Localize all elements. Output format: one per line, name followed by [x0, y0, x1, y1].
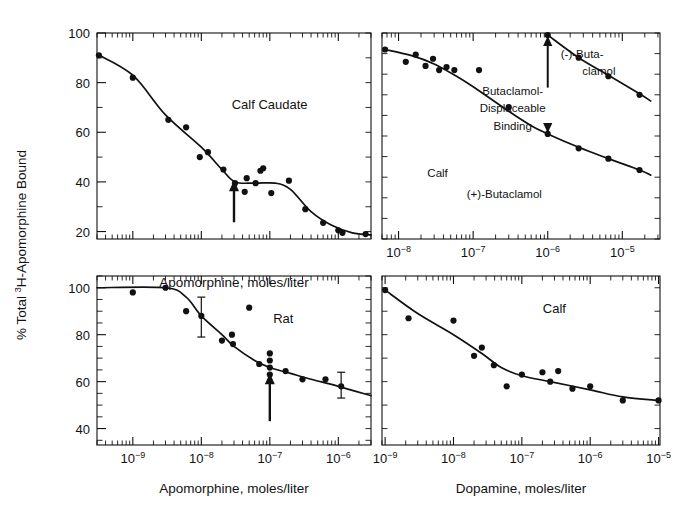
annotations-panel-bottom-left: RatApomorphine, moles/liter — [159, 311, 309, 496]
y-axis-title-text: % Total 3H-Apomorphine Bound — [13, 150, 29, 340]
data-point — [246, 305, 252, 311]
data-point — [244, 175, 250, 181]
panel-annotation-2: Butaclamol- — [482, 85, 543, 97]
panel-annotation-5: Calf — [427, 167, 448, 179]
y-tick-label: 60 — [76, 125, 90, 140]
data-point — [198, 313, 204, 319]
data-point-series-1 — [403, 59, 409, 65]
data-point — [539, 369, 545, 375]
data-point-series-1 — [436, 67, 442, 73]
data-point — [130, 289, 136, 295]
data-points-panel-bottom-right — [382, 287, 662, 404]
x-axis-panel-bottom-left: 10−910−810−710−6 — [97, 276, 371, 466]
data-point-series-1 — [443, 64, 449, 70]
panel-annotation-1: clamol — [582, 65, 615, 77]
data-point — [165, 117, 171, 123]
chart-panel-panel-top-right: 10−810−710−610−5(-)-Buta-clamolButaclamo… — [382, 32, 660, 260]
data-point-series-1 — [576, 145, 582, 151]
data-point — [299, 376, 305, 382]
data-point — [220, 166, 226, 172]
y-axis-panel-bottom-left: 406080100 — [68, 276, 371, 440]
data-point — [183, 308, 189, 314]
panel-frame — [97, 276, 371, 445]
four-panel-binding-figure: 20406080100Calf CaudateApomorphine, mole… — [0, 0, 675, 518]
annotation-arrow-panel-bottom-left — [265, 373, 275, 421]
x-tick-label: 10−7 — [461, 244, 486, 260]
x-tick-label: 10−9 — [120, 450, 145, 466]
data-point-series-1 — [422, 63, 428, 69]
data-point-series-1 — [413, 52, 419, 58]
data-point-series-1 — [382, 46, 388, 52]
data-point-series-1 — [476, 67, 482, 73]
panel-title-annotation: Calf Caudate — [232, 97, 308, 112]
data-point-series-1 — [636, 167, 642, 173]
data-point-series-0 — [636, 92, 642, 98]
data-point — [569, 386, 575, 392]
x-tick-label: 10−5 — [610, 244, 635, 260]
data-point — [197, 154, 203, 160]
data-point — [267, 364, 273, 370]
chart-panel-panel-top-left: 20406080100Calf CaudateApomorphine, mole… — [68, 26, 371, 290]
data-point — [205, 149, 211, 155]
y-tick-label: 80 — [76, 76, 90, 91]
data-point — [183, 124, 189, 130]
data-point-series-1 — [451, 67, 457, 73]
annotation-arrow-panel-top-left — [229, 180, 239, 222]
panel-title-annotation: Calf — [543, 301, 567, 316]
y-tick-label: 100 — [68, 281, 90, 296]
y-tick-label: 60 — [76, 375, 90, 390]
panel-annotation-6: (+)-Butaclamol — [467, 188, 542, 200]
x-tick-label: 10−7 — [509, 450, 534, 466]
data-point — [339, 230, 345, 236]
data-point — [322, 376, 328, 382]
annotations-panel-bottom-right: CalfDopamine, moles/liter — [456, 301, 587, 496]
data-point — [219, 337, 225, 343]
curves-panel-bottom-right — [385, 290, 658, 400]
data-point — [519, 371, 525, 377]
figure-container: 20406080100Calf CaudateApomorphine, mole… — [0, 0, 675, 518]
x-tick-label: 10−8 — [441, 450, 466, 466]
data-point-series-1 — [605, 156, 611, 162]
data-point — [587, 383, 593, 389]
x-tick-label: 10−7 — [257, 450, 282, 466]
data-point — [655, 397, 661, 403]
y-axis-panel-bottom-right — [382, 288, 660, 429]
data-point — [504, 383, 510, 389]
chart-panel-panel-bottom-right: 10−910−810−710−610−5CalfDopamine, moles/… — [373, 276, 671, 496]
data-point — [555, 368, 561, 374]
data-point — [620, 397, 626, 403]
x-axis-title: Apomorphine, moles/liter — [159, 481, 309, 496]
x-tick-label: 10−8 — [386, 244, 411, 260]
arrow-head-up — [265, 373, 275, 384]
data-point-series-1 — [430, 56, 436, 62]
data-point — [302, 206, 308, 212]
data-point — [267, 350, 273, 356]
x-axis-title: Dopamine, moles/liter — [456, 481, 587, 496]
data-point — [382, 287, 388, 293]
y-tick-label: 40 — [76, 175, 90, 190]
x-tick-label: 10−6 — [535, 244, 560, 260]
data-point — [283, 368, 289, 374]
data-point — [405, 315, 411, 321]
data-point — [242, 189, 248, 195]
data-point — [286, 178, 292, 184]
panel-title-annotation: Rat — [273, 311, 294, 326]
chart-panel-panel-bottom-left: 10−910−810−710−6406080100RatApomorphine,… — [68, 276, 371, 496]
x-tick-label: 10−8 — [189, 450, 214, 466]
data-point — [96, 52, 102, 58]
data-point — [547, 379, 553, 385]
arrow-head-down — [543, 123, 552, 133]
data-point — [268, 190, 274, 196]
data-point — [229, 332, 235, 338]
panel-annotation-3: Displaceable — [480, 102, 546, 114]
panel-frame — [382, 276, 660, 445]
data-point — [471, 353, 477, 359]
y-tick-label: 20 — [76, 225, 90, 240]
y-tick-label: 80 — [76, 328, 90, 343]
data-point — [479, 344, 485, 350]
y-axis-title: % Total 3H-Apomorphine Bound — [13, 150, 29, 340]
panel-annotation-0: (-)-Buta- — [561, 48, 604, 60]
data-points-panel-bottom-left — [130, 285, 345, 390]
data-point — [491, 362, 497, 368]
panel-annotation-4: Binding — [493, 120, 531, 132]
